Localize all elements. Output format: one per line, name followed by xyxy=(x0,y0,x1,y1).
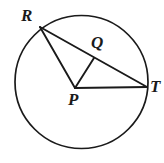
vertex-label-p: P xyxy=(68,91,78,108)
vertex-label-r: R xyxy=(21,7,32,24)
segment-PQ xyxy=(75,58,94,88)
segment-PT xyxy=(75,87,147,88)
circle-geometry-figure: R Q P T xyxy=(0,0,164,163)
vertex-label-q: Q xyxy=(91,34,103,51)
circle-outline xyxy=(15,16,148,149)
vertex-label-t: T xyxy=(150,78,160,95)
